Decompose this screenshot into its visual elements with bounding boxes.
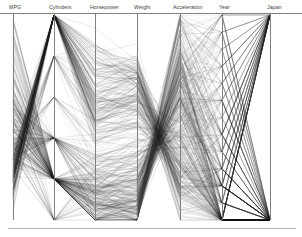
- parallel-coordinates-figure: MPG Cylinders Horsepower Weight Accelera…: [0, 0, 302, 237]
- axis-line-cylinders[interactable]: [54, 13, 55, 220]
- axis-line-horsepower[interactable]: [95, 13, 96, 220]
- axis-line-acceleration[interactable]: [180, 13, 181, 220]
- axis-line-weight[interactable]: [137, 13, 138, 220]
- polyline-group: [13, 15, 270, 220]
- axis-line-year[interactable]: [222, 13, 223, 220]
- bottom-rule: [8, 228, 296, 229]
- polyline-canvas: [0, 0, 302, 237]
- axis-line-mpg[interactable]: [13, 13, 14, 220]
- axis-line-japan[interactable]: [270, 13, 271, 220]
